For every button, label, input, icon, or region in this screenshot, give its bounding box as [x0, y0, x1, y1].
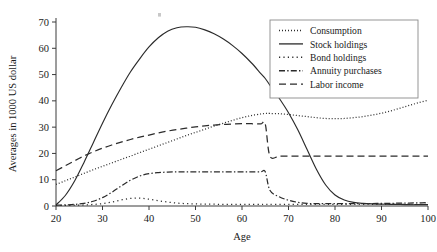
x-tick-label: 30: [97, 213, 108, 224]
x-tick-label: 90: [376, 213, 387, 224]
legend-label: Consumption: [310, 25, 362, 36]
legend-label: Bond holdings: [310, 52, 367, 63]
y-axis-label: Averages in 1000 US dollar: [7, 55, 18, 172]
x-tick-label: 70: [283, 213, 294, 224]
y-tick-label: 10: [39, 174, 50, 185]
legend-label: Stock holdings: [310, 39, 368, 50]
x-tick-label: 50: [190, 213, 201, 224]
series-line: [56, 170, 428, 205]
chart-figure: 0102030405060702030405060708090100AgeAve…: [0, 0, 437, 252]
x-tick-label: 40: [144, 213, 155, 224]
y-tick-label: 20: [39, 148, 50, 159]
y-tick-label: 60: [39, 43, 50, 54]
x-tick-label: 80: [330, 213, 341, 224]
y-tick-label: 70: [39, 17, 50, 28]
series-line: [56, 198, 428, 205]
x-tick-label: 60: [237, 213, 248, 224]
y-tick-label: 40: [39, 95, 50, 106]
series-line: [56, 122, 428, 171]
y-tick-label: 30: [39, 122, 50, 133]
legend-label: Labor income: [310, 79, 364, 90]
legend-label: Annuity purchases: [310, 65, 382, 76]
line-chart: 0102030405060702030405060708090100AgeAve…: [0, 0, 437, 252]
y-tick-label: 50: [39, 69, 50, 80]
scan-artifact: [158, 13, 161, 17]
y-tick-label: 0: [44, 201, 49, 212]
x-tick-label: 100: [420, 213, 436, 224]
x-tick-label: 20: [51, 213, 62, 224]
legend: ConsumptionStock holdingsBond holdingsAn…: [270, 20, 418, 98]
x-axis-label: Age: [233, 231, 251, 242]
